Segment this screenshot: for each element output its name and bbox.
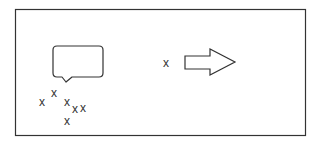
- cluster-mark: x: [64, 96, 70, 108]
- cluster-mark: x: [64, 115, 70, 127]
- speech-bubble-icon: [53, 46, 103, 82]
- diagram-svg: [0, 0, 320, 144]
- diagram-canvas: x x x x x x x: [0, 0, 320, 144]
- cluster-mark: x: [72, 103, 78, 115]
- cluster-mark: x: [51, 87, 57, 99]
- cluster-mark: x: [80, 102, 86, 114]
- right-arrow-icon: [185, 49, 235, 75]
- cluster-mark: x: [39, 96, 45, 108]
- single-mark: x: [163, 57, 169, 69]
